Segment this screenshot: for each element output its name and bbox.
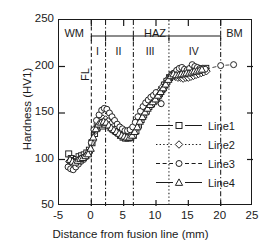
hardness-profile-chart: Hardness (HV1) Distance from fusion line… [0, 0, 261, 249]
x-tick-label: -5 [43, 210, 73, 222]
legend-label: Line1 [208, 120, 235, 132]
y-tick-label: 250 [24, 13, 54, 25]
legend-symbol-diamond [155, 135, 203, 154]
legend-label: Line4 [208, 177, 235, 189]
y-tick-label: 50 [24, 199, 54, 211]
x-tick-label: 20 [205, 210, 235, 222]
legend-symbol-square [155, 116, 203, 135]
data-point [218, 63, 224, 69]
legend-symbol-circle [155, 154, 203, 173]
x-tick-label: 0 [75, 210, 105, 222]
legend-label: Line3 [208, 158, 235, 170]
x-tick-label: 25 [237, 210, 261, 222]
y-tick-label: 200 [24, 60, 54, 72]
data-point [231, 62, 237, 68]
x-tick-label: 15 [172, 210, 202, 222]
legend-symbol-triangle [155, 173, 203, 192]
data-series-group [65, 62, 237, 173]
x-tick-label: 5 [108, 210, 138, 222]
haz-bracket [91, 36, 220, 41]
y-tick-label: 100 [24, 153, 54, 165]
y-tick-label: 150 [24, 106, 54, 118]
legend-label: Line2 [208, 139, 235, 151]
x-axis-title: Distance from fusion line (mm) [0, 228, 261, 240]
x-tick-label: 10 [140, 210, 170, 222]
